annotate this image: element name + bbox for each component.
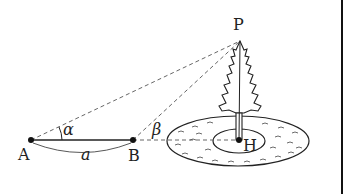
- point-A: [28, 137, 34, 143]
- label-H: H: [243, 136, 257, 155]
- label-A: A: [17, 145, 30, 164]
- label-beta: β: [151, 120, 161, 139]
- point-H: [236, 137, 242, 143]
- point-B: [130, 137, 136, 143]
- label-B: B: [128, 146, 140, 165]
- label-P: P: [233, 15, 244, 34]
- tree-height-diagram: A B P H α β a: [0, 0, 349, 194]
- label-a: a: [81, 145, 91, 164]
- diagram-canvas: A B P H α β a: [0, 0, 349, 194]
- angle-alpha-arc: [59, 127, 62, 140]
- label-alpha: α: [63, 120, 74, 139]
